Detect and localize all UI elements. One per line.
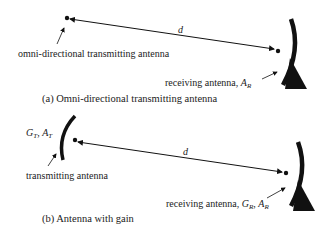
distance-arrow-b: [78, 142, 282, 172]
transmitter-dish-icon-b: [62, 116, 76, 160]
receiver-focus-dot-b: [284, 171, 288, 175]
receiver-stand-icon-a: [285, 58, 307, 89]
transmitter-pointer-arrow-a: [57, 28, 64, 44]
transmitter-label-a: omni-directional transmitting antenna: [18, 48, 170, 59]
transmitter-label-b: transmitting antenna: [26, 170, 108, 181]
distance-arrow-a: [70, 19, 274, 49]
transmitter-pointer-arrow-b: [48, 154, 56, 166]
caption-a: (a) Omni-directional transmitting antenn…: [42, 93, 218, 105]
receiver-pointer-arrow-a: [262, 72, 277, 79]
transmitter-focus-dot-b: [73, 138, 77, 142]
omni-transmitter-dot: [65, 16, 69, 20]
receiver-focus-dot-a: [276, 49, 280, 53]
receiver-stand-icon-b: [293, 180, 315, 211]
caption-b: (b) Antenna with gain: [42, 213, 135, 225]
panel-a: d omni-directional transmitting antenna …: [18, 16, 307, 105]
receiver-label-a: receiving antenna, AR: [165, 77, 252, 90]
receiver-label-b: receiving antenna, GR, AR: [166, 198, 269, 211]
distance-label-b: d: [183, 146, 189, 157]
receiver-pointer-arrow-b: [267, 188, 285, 198]
antenna-diagram: d omni-directional transmitting antenna …: [0, 0, 332, 228]
tx-gain-aperture-label: GT, AT: [26, 127, 53, 140]
panel-b: GT, AT d transmitting antenna receiving …: [26, 116, 315, 225]
distance-label-a: d: [178, 24, 184, 35]
